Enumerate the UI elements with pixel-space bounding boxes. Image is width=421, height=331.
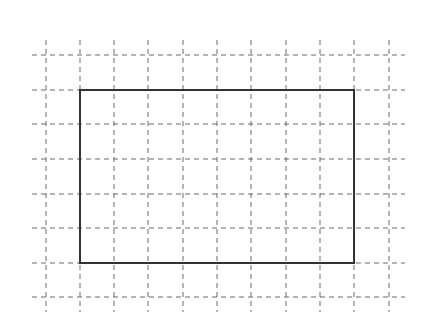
grid-diagram (0, 0, 421, 331)
diagram-canvas (0, 0, 421, 331)
vertical-grid-lines (46, 40, 389, 312)
horizontal-grid-lines (32, 55, 405, 297)
